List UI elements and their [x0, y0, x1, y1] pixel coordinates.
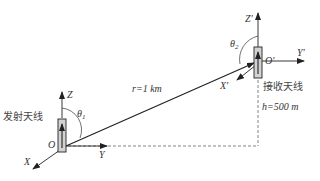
x-axis-label: X — [23, 156, 31, 167]
transmit-antenna-icon — [58, 119, 66, 152]
z-prime-axis-label: Z' — [245, 13, 254, 24]
x-prime-axis-label: X' — [219, 80, 229, 91]
z-axis-label: Z — [67, 89, 73, 100]
distance-label: r=1 km — [132, 83, 162, 94]
propagation-path-arrow-icon — [66, 63, 254, 146]
origin-label: O — [48, 139, 55, 150]
theta2-label: θ2 — [230, 38, 239, 51]
antenna-geometry-diagram: 发射天线 O Z Y X θ1 接收天线 O' Z' Y' X' θ2 r=1 … — [0, 0, 320, 181]
transmit-axes — [33, 92, 107, 169]
x-axis-arrow-icon — [33, 150, 60, 169]
origin-prime-label: O' — [265, 55, 275, 66]
y-axis-label: Y — [99, 149, 106, 160]
dashed-projection — [68, 80, 258, 146]
height-label: h=500 m — [262, 101, 298, 112]
receive-antenna-icon — [254, 47, 262, 78]
receive-antenna-label: 接收天线 — [263, 80, 303, 92]
theta1-label: θ1 — [77, 108, 85, 121]
x-prime-axis-arrow-icon — [237, 65, 256, 80]
transmit-antenna-label: 发射天线 — [3, 110, 43, 122]
y-prime-axis-label: Y' — [297, 47, 306, 58]
